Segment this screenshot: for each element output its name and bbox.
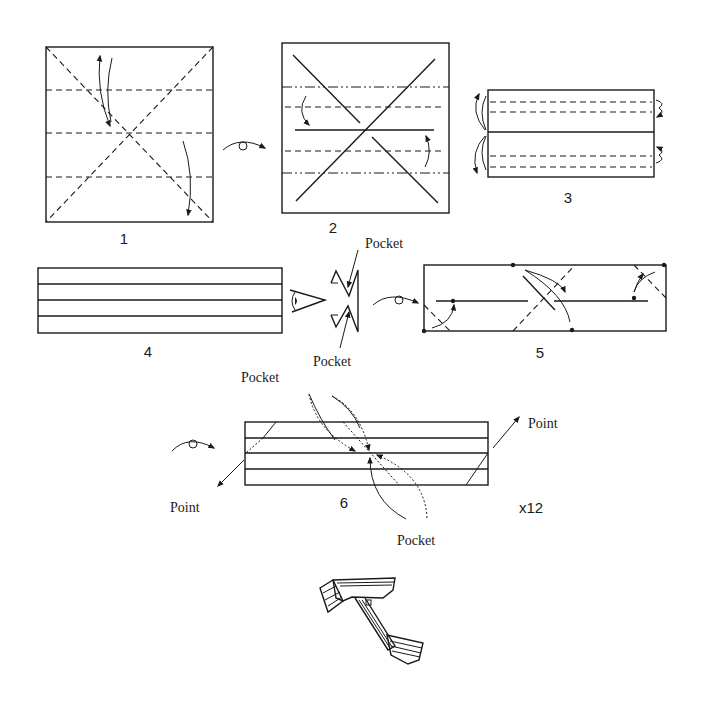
pocket-label: Pocket — [241, 370, 279, 385]
turn-over-icon — [373, 296, 418, 305]
step-2: 2 — [282, 43, 449, 236]
strip-paper — [424, 265, 666, 331]
step-6: 6 Pocket Pocket Point Point x12 — [170, 370, 558, 548]
origami-diagram: 1 2 3 — [0, 0, 704, 709]
pocket-label: Pocket — [397, 533, 435, 548]
step-4: 4 Pocket Pocket — [38, 236, 403, 369]
step-number: 1 — [120, 230, 128, 247]
point-label: Point — [528, 416, 558, 431]
side-profile — [331, 270, 358, 332]
step-5: 5 — [422, 263, 666, 361]
step-1: 1 — [46, 47, 213, 247]
pocket-label: Pocket — [313, 354, 351, 369]
pocket-pointer — [348, 250, 358, 287]
step-number: 3 — [564, 189, 572, 206]
step-number: 4 — [144, 343, 152, 360]
eye-view-icon — [290, 290, 325, 312]
turn-over-icon — [223, 142, 265, 150]
step-number: 2 — [329, 219, 337, 236]
multiplier-label: x12 — [519, 499, 543, 516]
point-arrow — [493, 417, 519, 448]
point-arrow — [218, 460, 244, 486]
turn-over-icon — [172, 440, 214, 451]
finished-unit-illustration — [320, 578, 423, 664]
step-number: 6 — [340, 494, 348, 511]
fold-arrow — [183, 141, 191, 215]
pocket-label: Pocket — [365, 236, 403, 251]
step-3: 3 — [475, 90, 662, 206]
rectangle-paper — [488, 90, 654, 177]
step-number: 5 — [536, 344, 544, 361]
point-label: Point — [170, 500, 200, 515]
